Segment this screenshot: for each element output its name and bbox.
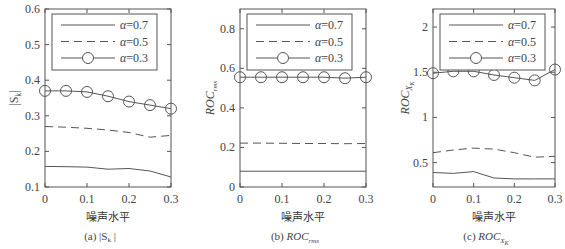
legend-label: α=0.5 xyxy=(508,35,536,49)
series-line xyxy=(240,143,366,144)
series-line xyxy=(240,77,366,78)
y-tick-label: 0.2 xyxy=(220,140,235,154)
y-tick-label: 0.5 xyxy=(413,156,428,170)
series-group xyxy=(235,72,372,171)
chart-panel-a: 0.10.20.30.40.50.600.10.20.3噪声水平|Sk|(a) … xyxy=(7,2,179,244)
x-tick-label: 0.1 xyxy=(466,192,481,206)
y-tick-label: 0.6 xyxy=(220,61,235,75)
legend-label: α=0.7 xyxy=(120,18,148,32)
x-tick-label: 0.3 xyxy=(359,192,374,206)
legend: α=0.7α=0.5α=0.3 xyxy=(440,14,545,70)
series-line xyxy=(45,166,171,177)
y-axis-label: |Sk| xyxy=(7,90,23,105)
x-tick-label: 0 xyxy=(237,192,243,206)
series-group xyxy=(40,85,177,177)
x-tick-label: 0.1 xyxy=(275,192,290,206)
legend-label: α=0.3 xyxy=(315,51,343,65)
x-tick-label: 0.2 xyxy=(122,192,137,206)
y-tick-label: 0.3 xyxy=(25,109,40,123)
panel-caption: (a) |Sk | xyxy=(84,230,116,244)
legend: α=0.7α=0.5α=0.3 xyxy=(52,14,157,70)
legend-label: α=0.3 xyxy=(508,51,536,65)
chart-panel-c: 0.511.5200.10.20.3噪声水平ROCXK(c) ROCXKα=0.… xyxy=(398,9,563,246)
legend-circle-marker xyxy=(471,53,482,64)
y-axis-label: ROCrms xyxy=(203,80,219,116)
series-group xyxy=(428,64,561,179)
y-tick-label: 0.4 xyxy=(25,73,40,87)
chart-figure: 0.10.20.30.40.50.600.10.20.3噪声水平|Sk|(a) … xyxy=(0,0,565,249)
legend-circle-marker xyxy=(278,53,289,64)
y-tick-label: 0 xyxy=(229,180,235,194)
legend: α=0.7α=0.5α=0.3 xyxy=(247,14,352,70)
x-axis-label: 噪声水平 xyxy=(86,210,130,224)
y-tick-label: 1 xyxy=(422,110,428,124)
y-tick-label: 0.2 xyxy=(25,144,40,158)
legend-label: α=0.5 xyxy=(120,35,148,49)
y-tick-label: 0.1 xyxy=(25,180,40,194)
series-line xyxy=(433,148,555,157)
y-tick-label: 0.4 xyxy=(220,101,235,115)
x-tick-label: 0.2 xyxy=(507,192,522,206)
x-axis-label: 噪声水平 xyxy=(281,210,325,224)
legend-label: α=0.5 xyxy=(315,35,343,49)
legend-label: α=0.7 xyxy=(508,18,536,32)
legend-label: α=0.7 xyxy=(315,18,343,32)
legend-circle-marker xyxy=(83,53,94,64)
chart-panel-b: 00.20.40.60.800.10.20.3噪声水平ROCrms(b) ROC… xyxy=(203,9,374,245)
x-tick-label: 0 xyxy=(430,192,436,206)
x-tick-label: 0.2 xyxy=(317,192,332,206)
x-tick-label: 0.3 xyxy=(548,192,563,206)
y-tick-label: 0.8 xyxy=(220,22,235,36)
y-tick-label: 0.5 xyxy=(25,38,40,52)
x-tick-label: 0 xyxy=(42,192,48,206)
legend-label: α=0.3 xyxy=(120,51,148,65)
series-line xyxy=(45,127,171,138)
x-axis-label: 噪声水平 xyxy=(472,210,516,224)
y-tick-label: 0.6 xyxy=(25,2,40,16)
y-axis-label: ROCXK xyxy=(398,81,415,116)
y-tick-label: 1.5 xyxy=(413,65,428,79)
series-line xyxy=(433,172,555,179)
panel-caption: (b) ROCrms xyxy=(271,230,319,245)
y-tick-label: 2 xyxy=(422,20,428,34)
x-tick-label: 0.3 xyxy=(164,192,179,206)
panel-caption: (c) ROCXK xyxy=(463,230,509,246)
x-tick-label: 0.1 xyxy=(80,192,95,206)
